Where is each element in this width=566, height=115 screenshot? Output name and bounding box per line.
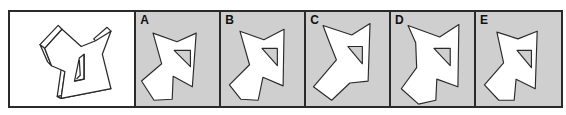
option-shape [476,12,561,106]
option-panel-a[interactable]: A [136,12,221,106]
extruded-shape-figure [10,12,134,106]
option-panel-d[interactable]: D [391,12,476,106]
option-panel-e[interactable]: E [476,12,561,106]
option-shape [306,12,389,106]
option-shape [221,12,304,106]
option-panel-c[interactable]: C [306,12,391,106]
option-panel-b[interactable]: B [221,12,306,106]
option-shape [391,12,474,106]
puzzle-strip: A B C D E [8,10,563,108]
reference-panel [10,12,136,106]
option-shape [136,12,219,106]
